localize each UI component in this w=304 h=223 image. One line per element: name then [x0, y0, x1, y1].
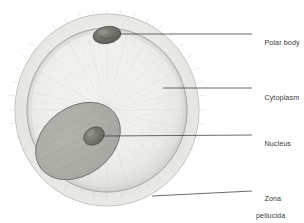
label-cytoplasm-text: Cytoplasm [264, 93, 299, 102]
label-zona-pellucida-text-line2: pellucida [256, 212, 285, 221]
label-nucleus: Nucleus [256, 131, 291, 157]
label-cytoplasm: Cytoplasm [256, 85, 299, 111]
label-zona-pellucida: Zona pellucida [256, 186, 285, 223]
leader-line-zona-pellucida [152, 191, 252, 196]
label-nucleus-text: Nucleus [264, 139, 291, 148]
label-polar-body: Polar body [256, 30, 300, 56]
ovum-diagram-figure: Polar body Cytoplasm Nucleus Zona pelluc… [0, 0, 304, 223]
label-polar-body-text: Polar body [264, 38, 299, 47]
label-zona-pellucida-text: Zona [264, 194, 281, 203]
